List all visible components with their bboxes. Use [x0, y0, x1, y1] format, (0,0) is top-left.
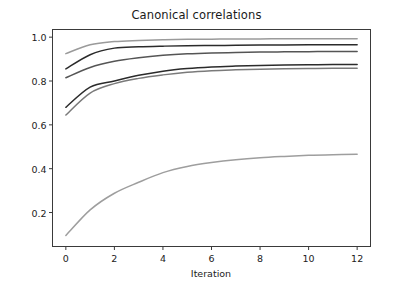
y-tick-label: 1.0: [31, 32, 46, 43]
y-tick-label: 0.4: [31, 163, 46, 174]
y-tick-label: 0.6: [31, 119, 46, 130]
x-tick-label: 10: [303, 253, 315, 264]
y-tick-label: 0.8: [31, 76, 46, 87]
line-correlation-6: [66, 154, 357, 235]
x-tick-label: 6: [208, 253, 214, 264]
x-tick-label: 8: [257, 253, 263, 264]
x-tick-label: 0: [63, 253, 69, 264]
data-lines: [66, 39, 357, 236]
x-axis-label: Iteration: [52, 268, 370, 279]
x-tick-label: 2: [111, 253, 117, 264]
axes-frame: [53, 30, 371, 247]
line-correlation-5: [66, 68, 357, 115]
figure-canvas: Canonical correlations 0246810120.20.40.…: [0, 0, 393, 290]
y-tick-label: 0.2: [31, 207, 46, 218]
x-tick-label: 4: [160, 253, 166, 264]
plot-area: [0, 0, 393, 290]
x-tick-label: 12: [351, 253, 363, 264]
